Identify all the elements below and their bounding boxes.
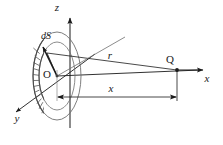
point-q-label: Q — [166, 53, 174, 65]
figure-canvas: z x y O Q r dS x — [0, 0, 223, 145]
axis-x — [57, 70, 203, 76]
axis-z-label: z — [54, 1, 60, 13]
vector-r-label: r — [108, 49, 113, 61]
dimension-x-label: x — [108, 82, 114, 94]
axis-x-label: x — [204, 72, 210, 84]
axis-y-label: y — [14, 112, 20, 124]
element-dS-label: dS — [41, 30, 51, 41]
axis-y-line — [16, 54, 95, 112]
construction-ray — [57, 37, 125, 76]
origin-label: O — [43, 68, 51, 80]
construction-line — [57, 37, 125, 76]
axis-y — [16, 54, 95, 112]
diagram-svg: z x y O Q r dS x — [0, 0, 223, 145]
